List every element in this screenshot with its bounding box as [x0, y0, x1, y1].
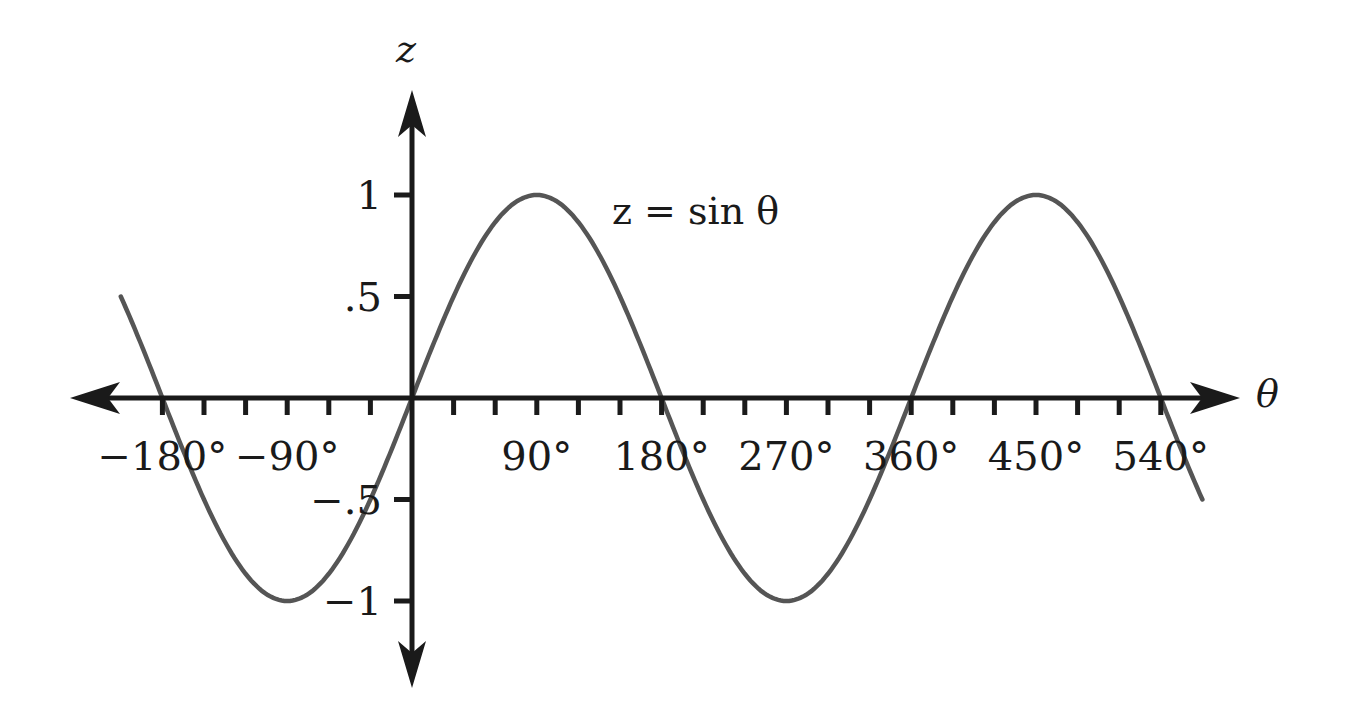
x-tick-label: 360°	[863, 433, 959, 479]
axes	[70, 90, 1240, 688]
sine-chart: −180°−90°90°180°270°360°450°540° 1.5−.5−…	[0, 0, 1347, 717]
x-tick-label: 180°	[613, 433, 709, 479]
x-tick-label: −90°	[235, 433, 339, 479]
x-tick-label: 270°	[738, 433, 834, 479]
x-tick-label: 90°	[501, 433, 572, 479]
x-tick-label: −180°	[97, 433, 227, 479]
y-tick-label: −.5	[310, 477, 382, 523]
y-tick-label: .5	[344, 274, 382, 320]
curve-annotation: z = sin θ	[612, 189, 779, 233]
x-axis-ticks: −180°−90°90°180°270°360°450°540°	[97, 398, 1209, 479]
x-tick-label: 450°	[988, 433, 1084, 479]
x-tick-label: 540°	[1113, 433, 1209, 479]
y-axis-label: z	[395, 27, 417, 71]
y-tick-label: 1	[357, 172, 382, 218]
x-axis-label: θ	[1256, 372, 1279, 416]
y-tick-label: −1	[323, 578, 382, 624]
